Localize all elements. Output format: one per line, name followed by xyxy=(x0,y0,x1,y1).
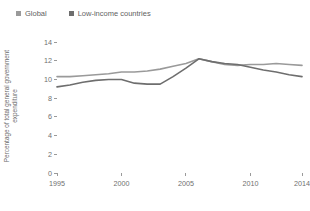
series-lines xyxy=(57,42,302,173)
y-tick-8: 8 xyxy=(48,93,57,103)
x-tick-mark xyxy=(250,173,251,176)
y-tick-4: 4 xyxy=(48,131,57,141)
y-axis-ticks: 02468101214 xyxy=(33,42,57,173)
y-tick-10: 10 xyxy=(44,74,57,84)
y-tick-6: 6 xyxy=(48,112,57,122)
x-axis-ticks: 19952000200520102014 xyxy=(57,173,302,197)
y-axis-title-container: Percentage of total general government e… xyxy=(0,40,22,172)
x-tick-2014: 2014 xyxy=(287,173,310,188)
x-tick-label: 2010 xyxy=(235,179,265,188)
legend-label-global: Global xyxy=(25,9,47,18)
x-tick-mark xyxy=(57,173,58,176)
plot-area xyxy=(57,42,302,173)
x-tick-2010: 2010 xyxy=(235,173,265,188)
x-tick-mark xyxy=(185,173,186,176)
y-tick-label: 14 xyxy=(44,38,52,47)
x-tick-mark xyxy=(121,173,122,176)
chart-container: Global Low-income countries Percentage o… xyxy=(0,0,310,211)
y-tick-label: 4 xyxy=(48,131,52,140)
x-tick-label: 2005 xyxy=(171,179,201,188)
x-tick-label: 1995 xyxy=(42,179,72,188)
chart-legend: Global Low-income countries xyxy=(16,7,151,19)
x-tick-2005: 2005 xyxy=(171,173,201,188)
legend-item-global: Global xyxy=(16,7,47,19)
series-line-low-income-countries xyxy=(57,59,302,87)
x-tick-1995: 1995 xyxy=(42,173,72,188)
x-tick-label: 2014 xyxy=(287,179,310,188)
legend-item-low-income-countries: Low-income countries xyxy=(69,7,151,19)
legend-swatch-global xyxy=(16,11,21,16)
y-tick-label: 6 xyxy=(48,112,52,121)
y-tick-14: 14 xyxy=(44,37,57,47)
y-tick-label: 2 xyxy=(48,150,52,159)
y-tick-2: 2 xyxy=(48,149,57,159)
y-tick-label: 10 xyxy=(44,75,52,84)
series-line-global xyxy=(57,59,302,77)
legend-swatch-low-income-countries xyxy=(69,11,74,16)
x-tick-2000: 2000 xyxy=(106,173,136,188)
y-axis-title: Percentage of total general government e… xyxy=(3,41,18,171)
x-tick-mark xyxy=(302,173,303,176)
x-tick-label: 2000 xyxy=(106,179,136,188)
legend-label-low-income-countries: Low-income countries xyxy=(78,9,151,18)
y-tick-label: 12 xyxy=(44,56,52,65)
y-tick-label: 8 xyxy=(48,94,52,103)
y-tick-12: 12 xyxy=(44,56,57,66)
